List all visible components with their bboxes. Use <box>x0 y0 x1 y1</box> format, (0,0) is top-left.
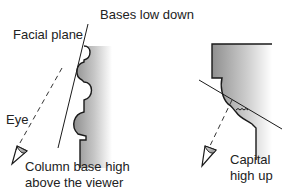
eye-icon-right <box>202 146 216 166</box>
label-facial-plane: Facial plane <box>13 27 83 42</box>
label-column-base-line1: Column base high <box>25 159 130 174</box>
label-bases-low-down: Bases low down <box>100 7 194 22</box>
label-column-base-line2: above the viewer <box>25 175 123 190</box>
label-capital-line1: Capital <box>230 152 270 167</box>
label-capital-line2: high up <box>230 168 273 183</box>
sight-line-left <box>16 68 62 150</box>
label-eye: Eye <box>6 112 28 127</box>
capital-profile <box>212 44 272 160</box>
sight-line-right <box>208 100 232 150</box>
column-base-profile <box>74 46 112 168</box>
